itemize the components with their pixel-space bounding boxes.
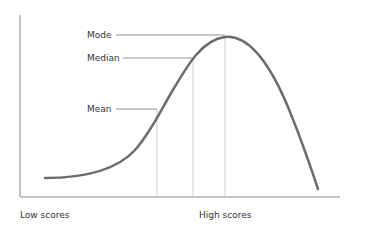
low-scores-label: Low scores bbox=[20, 210, 70, 220]
skewed-distribution-diagram: Mode Median Mean Low scores High scores bbox=[0, 0, 371, 234]
distribution-curve bbox=[45, 37, 318, 189]
median-label: Median bbox=[87, 53, 120, 63]
mean-label: Mean bbox=[87, 104, 112, 114]
high-scores-label: High scores bbox=[199, 210, 252, 220]
mode-label: Mode bbox=[87, 30, 112, 40]
